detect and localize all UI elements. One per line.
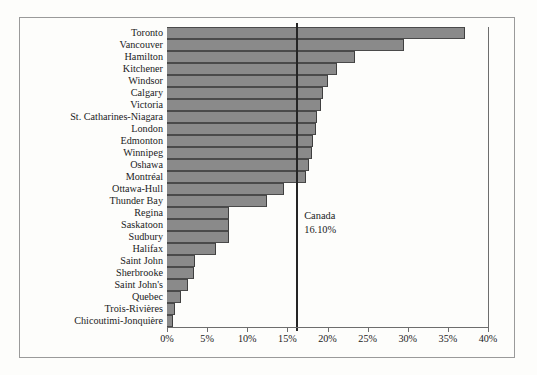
bar	[167, 147, 312, 159]
chart-frame: TorontoVancouverHamiltonKitchenerWindsor…	[19, 17, 515, 358]
bar-row: London	[167, 123, 488, 135]
bar-row: Winnipeg	[167, 147, 488, 159]
bar	[167, 243, 216, 255]
category-label: Sudbury	[128, 232, 163, 242]
plot: TorontoVancouverHamiltonKitchenerWindsor…	[20, 18, 514, 357]
bar-row: Halifax	[167, 243, 488, 255]
bar	[167, 315, 173, 327]
bar	[167, 111, 317, 123]
x-tick-label: 40%	[479, 333, 498, 344]
canada-annotation-value: 16.10%	[304, 223, 336, 237]
category-label: Vancouver	[119, 40, 163, 50]
bar	[167, 75, 328, 87]
x-tick-label: 10%	[238, 333, 257, 344]
category-label: Saskatoon	[121, 220, 163, 230]
bar-row: Hamilton	[167, 51, 488, 63]
bar	[167, 99, 321, 111]
category-label: Winnipeg	[123, 148, 163, 158]
bar-row: Vancouver	[167, 39, 488, 51]
bar	[167, 27, 465, 39]
x-tick-label: 15%	[278, 333, 297, 344]
category-label: Saint John's	[114, 280, 163, 290]
bar-row: Chicoutimi-Jonquière	[167, 315, 488, 327]
bar-row: Montréal	[167, 171, 488, 183]
category-label: Chicoutimi-Jonquière	[74, 316, 163, 326]
category-label: Kitchener	[123, 64, 163, 74]
bar-row: Saint John's	[167, 279, 488, 291]
category-label: Trois-Rivières	[105, 304, 164, 314]
bar	[167, 87, 323, 99]
category-label: St. Catharines-Niagara	[70, 112, 163, 122]
category-label: Sherbrooke	[116, 268, 163, 278]
bar-row: Windsor	[167, 75, 488, 87]
x-tick-label: 30%	[398, 333, 417, 344]
x-tick-label: 35%	[439, 333, 458, 344]
bar	[167, 255, 195, 267]
bar	[167, 207, 229, 219]
category-label: Edmonton	[121, 136, 163, 146]
category-label: Toronto	[131, 28, 163, 38]
category-label: Calgary	[131, 88, 163, 98]
bar-row: Sherbrooke	[167, 267, 488, 279]
category-label: Regina	[134, 208, 163, 218]
bar-row: Toronto	[167, 27, 488, 39]
bar-row: Saint John	[167, 255, 488, 267]
bar-row: Edmonton	[167, 135, 488, 147]
bar-row: St. Catharines-Niagara	[167, 111, 488, 123]
category-label: Victoria	[130, 100, 163, 110]
bar	[167, 267, 194, 279]
x-tick	[287, 327, 288, 332]
bar-row: Ottawa-Hull	[167, 183, 488, 195]
bar	[167, 279, 188, 291]
bar	[167, 135, 313, 147]
x-tick	[448, 327, 449, 332]
bar	[167, 291, 181, 303]
bar	[167, 195, 267, 207]
category-label: Thunder Bay	[110, 196, 163, 206]
bar-row: Quebec	[167, 291, 488, 303]
bar	[167, 231, 229, 243]
canada-annotation-title: Canada	[304, 209, 336, 223]
x-tick	[328, 327, 329, 332]
x-tick	[408, 327, 409, 332]
category-label: Oshawa	[130, 160, 163, 170]
category-label: London	[131, 124, 163, 134]
bar	[167, 183, 284, 195]
category-label: Montréal	[126, 172, 163, 182]
x-tick	[167, 327, 168, 332]
x-tick	[488, 327, 489, 332]
bar	[167, 303, 175, 315]
x-tick	[368, 327, 369, 332]
x-tick-label: 20%	[318, 333, 337, 344]
canada-annotation: Canada 16.10%	[304, 209, 336, 236]
bar-row: Thunder Bay	[167, 195, 488, 207]
category-label: Halifax	[132, 244, 163, 254]
category-label: Quebec	[132, 292, 163, 302]
category-label: Hamilton	[125, 52, 163, 62]
bar-row: Oshawa	[167, 159, 488, 171]
bar	[167, 123, 316, 135]
x-tick-label: 25%	[358, 333, 377, 344]
bar	[167, 171, 306, 183]
x-tick	[207, 327, 208, 332]
bar-row: Trois-Rivières	[167, 303, 488, 315]
canada-reference-line	[296, 23, 297, 331]
category-label: Windsor	[128, 76, 163, 86]
category-label: Saint John	[120, 256, 163, 266]
x-tick-label: 0%	[160, 333, 174, 344]
plot-area: TorontoVancouverHamiltonKitchenerWindsor…	[167, 27, 489, 327]
x-tick	[247, 327, 248, 332]
bar	[167, 63, 337, 75]
bar-row: Kitchener	[167, 63, 488, 75]
bar	[167, 39, 404, 51]
bar	[167, 159, 309, 171]
bar	[167, 219, 229, 231]
category-label: Ottawa-Hull	[112, 184, 163, 194]
bar-row: Calgary	[167, 87, 488, 99]
bar-row: Victoria	[167, 99, 488, 111]
bar	[167, 51, 355, 63]
x-tick-label: 5%	[200, 333, 214, 344]
